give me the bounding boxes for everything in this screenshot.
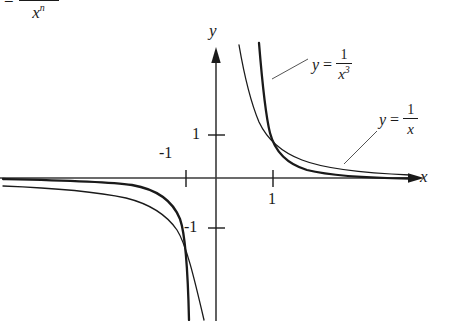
curve-label-inv-x: y = 1 x [379,103,418,137]
y-axis-arrowhead [211,47,220,63]
graph-canvas [0,0,451,321]
curve-label-inv-x-cubed: y = 1 x3 [312,48,352,82]
curve-label-numerator: 1 [338,48,349,63]
tick-label-y-plus1: 1 [192,126,200,142]
leader-line-inv-x [344,131,377,164]
curve-label-fraction: 1 x3 [336,48,352,82]
curve-label-lhs: y [312,57,319,73]
curve-label-exponent: 3 [345,64,350,75]
curve-label-lhs: y [379,112,386,128]
curve-label-denominator: x3 [336,64,352,82]
y-axis-label: y [209,22,217,39]
curve-inv-x-cubed-quadrant3 [3,179,189,320]
x-axis-label: x [420,168,428,185]
curve-label-equals: = [389,112,400,128]
curve-label-fraction: 1 x [403,103,418,137]
curve-label-numerator: 1 [405,103,416,118]
tick-label-y-minus1: -1 [184,219,197,235]
figure-container: = 1 xn x y -1 1 1 -1 [0,0,451,321]
curve-label-denominator-base: x [338,66,345,82]
curve-label-equals: = [322,57,333,73]
curve-label-denominator: x [405,119,416,137]
curve-label-denominator-base: x [407,121,414,137]
leader-line-inv-x-cubed [272,59,308,79]
tick-label-x-plus1: 1 [268,191,276,207]
tick-label-x-minus1: -1 [159,145,172,161]
